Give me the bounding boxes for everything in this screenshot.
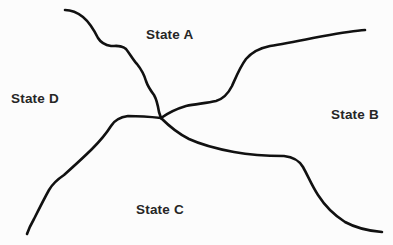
state-label-d: State D	[11, 92, 59, 106]
map-canvas	[0, 0, 393, 245]
map-background	[0, 0, 393, 245]
footer-partial-text	[0, 236, 393, 245]
state-label-a: State A	[146, 28, 193, 42]
state-label-b: State B	[331, 108, 379, 122]
state-label-c: State C	[136, 203, 184, 217]
state-boundary-map: State A State B State C State D	[0, 0, 393, 245]
